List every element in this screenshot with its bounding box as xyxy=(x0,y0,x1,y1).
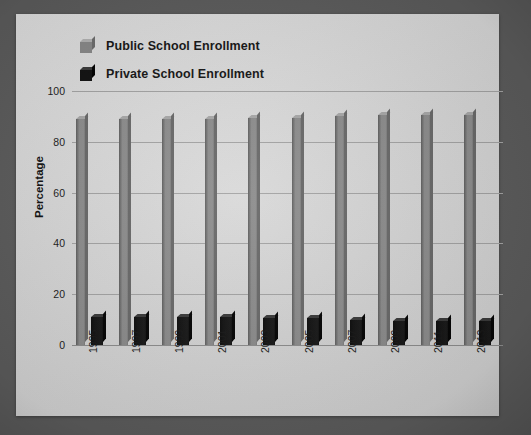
chart-legend: Public School Enrollment Private School … xyxy=(78,32,338,88)
x-tick-label-1999: 1999 xyxy=(173,330,185,353)
plot-area: 0204060801001995199719992001200320052007… xyxy=(72,91,503,345)
x-tick-label-2005: 2005 xyxy=(303,330,315,353)
legend-label-private: Private School Enrollment xyxy=(106,67,264,81)
legend-label-public: Public School Enrollment xyxy=(106,39,260,53)
x-tick-label-2003: 2003 xyxy=(259,330,271,353)
bar-public-2007 xyxy=(335,116,344,345)
x-tick-label-2009: 2009 xyxy=(389,330,401,353)
gridline-80: 80 xyxy=(72,142,503,143)
x-tick-label-1997: 1997 xyxy=(130,330,142,353)
y-tick-label-40: 40 xyxy=(53,237,65,249)
bar-public-2001 xyxy=(205,119,214,345)
bar-public-2009 xyxy=(378,115,387,345)
x-tick-label-2013: 2013 xyxy=(475,330,487,353)
gridline-40: 40 xyxy=(72,243,503,244)
bar-public-1997 xyxy=(119,119,128,345)
y-axis-title: Percentage xyxy=(33,156,45,218)
bar-public-2011 xyxy=(421,115,430,345)
screenshot-stage: Public School Enrollment Private School … xyxy=(0,0,531,435)
chart-panel: Public School Enrollment Private School … xyxy=(16,14,499,416)
y-tick-label-80: 80 xyxy=(53,136,65,148)
x-tick-label-2007: 2007 xyxy=(346,330,358,353)
gridline-60: 60 xyxy=(72,193,503,194)
bar-public-1999 xyxy=(162,119,171,345)
public-swatch-icon xyxy=(80,39,95,53)
y-tick-label-100: 100 xyxy=(47,85,65,97)
y-tick-label-60: 60 xyxy=(53,187,65,199)
bar-public-2005 xyxy=(292,118,301,345)
legend-item-private: Private School Enrollment xyxy=(78,60,338,88)
x-tick-label-2001: 2001 xyxy=(216,330,228,353)
y-tick-label-0: 0 xyxy=(59,339,65,351)
x-tick-label-1995: 1995 xyxy=(87,330,99,353)
legend-item-public: Public School Enrollment xyxy=(78,32,338,60)
private-swatch-icon xyxy=(80,67,95,81)
bar-public-1995 xyxy=(76,119,85,345)
bar-public-2003 xyxy=(248,118,257,345)
x-tick-label-2011: 2011 xyxy=(432,330,444,353)
gridline-20: 20 xyxy=(72,294,503,295)
y-tick-label-20: 20 xyxy=(53,288,65,300)
gridline-100: 100 xyxy=(72,91,503,92)
bar-public-2013 xyxy=(464,115,473,345)
